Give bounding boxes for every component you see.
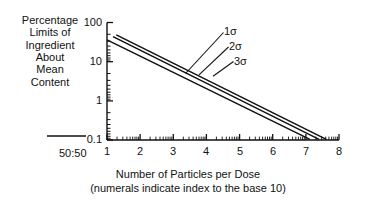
y-tick-label-100: 100 [68,16,102,28]
ratio-axis-label: 50:50 [59,147,87,159]
x-tick-label-7: 7 [298,145,314,157]
y-axis-title-line-3: Ingredient [8,39,92,51]
leader-line-3-sigma [213,62,234,77]
x-tick-label-8: 8 [331,145,347,157]
annotation-1-sigma: 1σ [224,25,237,37]
x-tick-label-1: 1 [99,145,115,157]
y-axis-title-line-2: Limits of [8,26,92,38]
x-tick-label-5: 5 [232,145,248,157]
x-tick-label-6: 6 [265,145,281,157]
y-tick-label-0.1: 0.1 [68,133,102,145]
x-tick-label-3: 3 [165,145,181,157]
series-line-2-sigma [113,37,319,140]
leader-line-2-sigma [199,47,229,75]
chart-figure: Percentage Limits of Ingredient About Me… [0,0,376,207]
x-tick-label-4: 4 [198,145,214,157]
y-tick-label-10: 10 [68,55,102,67]
x-tick-label-2: 2 [132,145,148,157]
leader-line-1-sigma [186,33,224,74]
series-line-3-sigma [116,35,326,140]
annotation-2-sigma: 2σ [229,40,242,52]
x-axis-note: (numerals indicate index to the base 10) [0,182,376,194]
series-line-1-sigma [107,40,310,140]
x-axis-title: Number of Particles per Dose [0,168,376,180]
annotation-3-sigma: 3σ [234,55,247,67]
y-axis-title-line-6: Content [8,76,92,88]
y-tick-label-1: 1 [68,94,102,106]
